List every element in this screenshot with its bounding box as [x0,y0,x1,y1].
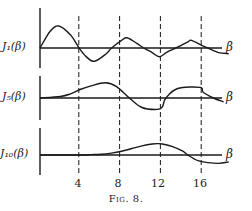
x-tick-4: 4 [75,177,82,190]
j5-axis-label: J₅(β) [2,90,26,103]
bessel-curve [40,83,224,110]
beta-label-j1: β [226,40,233,54]
x-tick-8: 8 [115,177,122,190]
bessel-function-figure [0,0,252,211]
beta-label-j5: β [226,90,233,104]
bessel-curve [40,144,229,164]
j1-axis-label: J₁(β) [2,40,26,53]
j10-axis-label: J₁₀(β) [0,147,28,160]
bessel-curve [40,26,229,61]
x-tick-16: 16 [193,177,207,190]
x-tick-12: 12 [151,177,165,190]
figure-caption: Fig. 8. [0,193,252,204]
beta-label-j10: β [226,147,233,161]
